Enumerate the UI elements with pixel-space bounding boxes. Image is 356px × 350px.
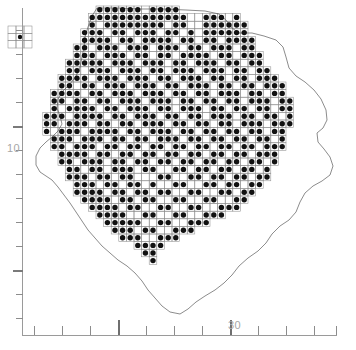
grid-square (126, 112, 134, 120)
record-dot (242, 68, 247, 73)
record-dot (128, 91, 133, 96)
record-dot (219, 167, 224, 172)
record-dot (249, 53, 254, 58)
grid-square (172, 52, 180, 60)
record-dot (211, 30, 216, 35)
record-dot (166, 7, 171, 12)
record-dot (59, 91, 64, 96)
grid-square (149, 44, 157, 52)
grid-square (180, 204, 188, 212)
grid-square (218, 97, 226, 105)
x-tick-10 (314, 326, 315, 335)
grid-square (119, 181, 127, 189)
record-dot (181, 98, 186, 103)
distribution-map-canvas[interactable] (0, 0, 356, 350)
record-dot (59, 76, 64, 81)
record-dot (204, 91, 209, 96)
record-dot (90, 114, 95, 119)
record-dot (143, 53, 148, 58)
grid-square (172, 204, 180, 212)
grid-square (225, 67, 233, 75)
record-dot (264, 68, 269, 73)
record-dot (74, 129, 79, 134)
record-dot (128, 76, 133, 81)
grid-square (202, 105, 210, 113)
grid-square (96, 82, 104, 90)
grid-square (104, 188, 112, 196)
record-dot (105, 144, 110, 149)
record-dot (173, 91, 178, 96)
grid-square (88, 120, 96, 128)
record-dot (82, 114, 87, 119)
grid-square (73, 82, 81, 90)
inset-grid-square (24, 41, 32, 48)
grid-square (164, 67, 172, 75)
grid-square (149, 173, 157, 181)
record-dot (90, 167, 95, 172)
record-dot (242, 22, 247, 27)
grid-square (66, 143, 74, 151)
record-dot (143, 250, 148, 255)
grid-square (271, 97, 279, 105)
record-dot (166, 83, 171, 88)
record-dot (74, 45, 79, 50)
record-dot (128, 205, 133, 210)
record-dot (234, 197, 239, 202)
record-dot (59, 144, 64, 149)
record-dot (135, 106, 140, 111)
y-tick-11 (16, 294, 23, 295)
grid-square (256, 166, 264, 174)
record-dot (211, 136, 216, 141)
record-dot (74, 182, 79, 187)
record-dot (173, 45, 178, 50)
record-dot (90, 136, 95, 141)
grid-square (149, 52, 157, 60)
record-dot (166, 30, 171, 35)
record-dot (219, 30, 224, 35)
record-dot (150, 243, 155, 248)
record-dot (257, 60, 262, 65)
record-dot (74, 114, 79, 119)
record-dot (219, 205, 224, 210)
record-dot (67, 129, 72, 134)
grid-square (248, 105, 256, 113)
record-dot (264, 174, 269, 179)
record-dot (135, 136, 140, 141)
record-dot (143, 76, 148, 81)
grid-square (149, 158, 157, 166)
grid-square (202, 74, 210, 82)
record-dot (128, 106, 133, 111)
grid-square (172, 74, 180, 82)
inset-grid-square (8, 26, 16, 33)
inset-grid-square (24, 33, 32, 40)
record-dot (226, 190, 231, 195)
record-dot (120, 114, 125, 119)
record-dot (82, 45, 87, 50)
grid-square (210, 82, 218, 90)
record-dot (211, 22, 216, 27)
record-dot (242, 53, 247, 58)
grid-square (142, 173, 150, 181)
x-tick-5 (174, 326, 175, 335)
map-plate (0, 0, 356, 350)
record-dot (188, 228, 193, 233)
grid-square (271, 135, 279, 143)
grid-square (126, 82, 134, 90)
record-dot (67, 76, 72, 81)
record-dot (150, 30, 155, 35)
record-dot (143, 30, 148, 35)
grid-square (202, 135, 210, 143)
grid-square (81, 90, 89, 98)
record-dot (150, 7, 155, 12)
grid-square (233, 143, 241, 151)
grid-square (233, 166, 241, 174)
grid-square (88, 74, 96, 82)
record-dot (135, 129, 140, 134)
record-dot (234, 15, 239, 20)
grid-square (134, 226, 142, 234)
record-dot (188, 174, 193, 179)
record-dot (143, 152, 148, 157)
record-dot (166, 220, 171, 225)
record-dot (97, 15, 102, 20)
x-tick-4 (146, 326, 147, 335)
